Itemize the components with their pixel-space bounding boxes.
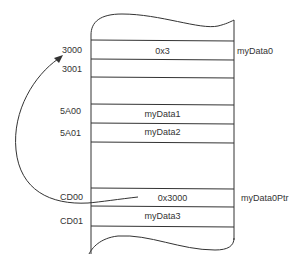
cell-value-cd00: 0x3000 <box>101 193 244 203</box>
var-name-mydata0ptr: myData0Ptr <box>241 193 289 203</box>
address-3000: 3000 <box>62 45 82 55</box>
address-cd01: CD01 <box>60 216 83 226</box>
address-5a01: 5A01 <box>60 128 81 138</box>
address-cd00: CD00 <box>60 192 83 202</box>
cell-value-5a00: myData1 <box>91 109 234 119</box>
cell-value-5a01: myData2 <box>91 127 234 137</box>
memory-diagram: 3000 3001 5A00 5A01 CD00 CD01 0x3 myData… <box>0 0 302 260</box>
arrowhead-icon <box>54 55 63 63</box>
cell-value-3000: 0x3 <box>91 46 234 56</box>
cell-value-cd01: myData3 <box>91 211 234 221</box>
var-name-mydata0: myData0 <box>237 46 273 56</box>
address-5a00: 5A00 <box>60 106 81 116</box>
address-3001: 3001 <box>62 64 82 74</box>
